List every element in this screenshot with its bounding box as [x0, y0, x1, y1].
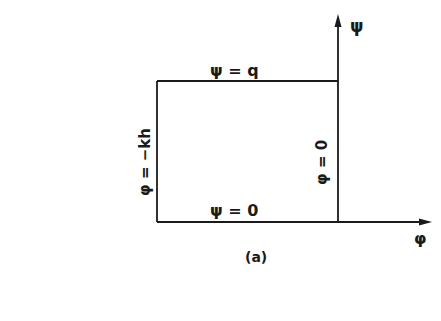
psi-axis-arrow-icon	[335, 14, 342, 27]
complex-potential-diagram: ψ φ ψ = q ψ = 0 φ = −kh φ = 0 (a)	[0, 0, 441, 321]
phi-axis-arrow-icon	[419, 219, 432, 226]
phi-axis-label: φ	[414, 229, 427, 248]
bottom-boundary-label: ψ = 0	[210, 201, 258, 220]
top-boundary-label: ψ = q	[210, 61, 259, 80]
psi-axis-label: ψ	[350, 16, 364, 36]
left-boundary-label: φ = −kh	[136, 128, 154, 196]
right-boundary-label: φ = 0	[313, 140, 331, 185]
figure-caption: (a)	[245, 249, 267, 265]
phi-axis: φ	[157, 219, 432, 249]
psi-axis: ψ	[335, 14, 364, 222]
